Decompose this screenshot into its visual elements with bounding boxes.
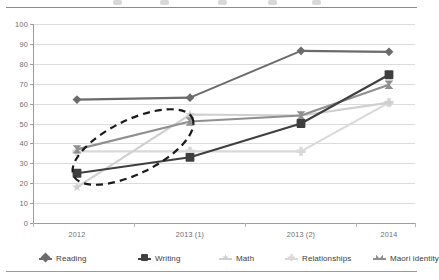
legend-marker-icon bbox=[219, 253, 232, 264]
data-point-marker bbox=[297, 46, 306, 55]
bleed-mark bbox=[268, 0, 277, 5]
chart-legend: ReadingWritingMathRelationshipsMaori ide… bbox=[33, 250, 415, 266]
legend-marker-icon bbox=[373, 253, 386, 264]
series-layer bbox=[33, 24, 415, 223]
data-point-marker bbox=[72, 182, 81, 191]
plot-area: 0102030405060708090100 20122013 (1)2013 … bbox=[33, 24, 415, 223]
x-axis-tick bbox=[356, 223, 357, 227]
page-bleed-artifacts bbox=[0, 0, 423, 7]
x-axis-tick-label: 2013 (2) bbox=[287, 230, 315, 239]
legend-item-writing[interactable]: Writing bbox=[138, 250, 180, 266]
legend-label: Relationships bbox=[302, 254, 351, 263]
y-axis-tick bbox=[30, 24, 33, 25]
legend-label: Math bbox=[236, 254, 254, 263]
bottom-divider-rule bbox=[6, 271, 417, 272]
bleed-mark bbox=[160, 0, 169, 5]
x-axis-tick-label: 2014 bbox=[381, 230, 398, 239]
y-axis-labels: 0102030405060708090100 bbox=[2, 24, 28, 223]
y-axis-tick-label: 10 bbox=[2, 199, 28, 208]
data-point-marker bbox=[296, 147, 305, 156]
legend-line-swatch bbox=[373, 258, 386, 260]
x-axis-tick bbox=[245, 223, 246, 227]
y-axis-tick-label: 0 bbox=[2, 219, 28, 228]
bleed-mark bbox=[312, 0, 321, 5]
y-axis-tick bbox=[30, 124, 33, 125]
x-axis-tick-label: 2012 bbox=[69, 230, 86, 239]
y-axis-tick-label: 70 bbox=[2, 79, 28, 88]
y-axis-tick-label: 80 bbox=[2, 59, 28, 68]
y-axis-tick-label: 100 bbox=[2, 20, 28, 29]
legend-item-relationships[interactable]: Relationships bbox=[285, 250, 351, 266]
y-axis-tick-label: 60 bbox=[2, 99, 28, 108]
legend-label: Writing bbox=[155, 254, 180, 263]
legend-item-maori-identity[interactable]: Maori identity bbox=[373, 250, 439, 266]
y-axis-tick-label: 40 bbox=[2, 139, 28, 148]
y-axis-tick bbox=[30, 203, 33, 204]
legend-symbol-diamond-icon bbox=[41, 253, 51, 263]
legend-label: Maori identity bbox=[390, 254, 439, 263]
data-point-marker bbox=[73, 169, 82, 178]
y-axis-tick bbox=[30, 64, 33, 65]
series-line bbox=[77, 85, 389, 150]
legend-label: Reading bbox=[56, 254, 87, 263]
legend-symbol-plus-x-icon bbox=[288, 254, 295, 261]
series-line bbox=[77, 75, 389, 174]
bleed-mark bbox=[218, 0, 227, 5]
bleed-mark bbox=[113, 0, 122, 5]
x-axis-tick-label: 2013 (1) bbox=[176, 230, 204, 239]
x-axis-tick bbox=[33, 223, 34, 227]
legend-marker-icon bbox=[138, 253, 151, 264]
y-axis-tick-label: 30 bbox=[2, 159, 28, 168]
data-point-marker bbox=[186, 93, 195, 102]
y-axis-tick-label: 50 bbox=[2, 119, 28, 128]
top-divider-rule bbox=[6, 7, 417, 8]
y-axis-tick bbox=[30, 44, 33, 45]
series-reading bbox=[73, 46, 394, 104]
series-line bbox=[77, 51, 389, 100]
legend-item-reading[interactable]: Reading bbox=[39, 250, 87, 266]
legend-marker-icon bbox=[285, 253, 298, 264]
x-axis-tick bbox=[134, 223, 135, 227]
data-point-marker bbox=[385, 47, 394, 56]
legend-symbol-square-icon bbox=[141, 254, 148, 261]
data-point-marker bbox=[186, 153, 195, 162]
x-axis-tick bbox=[415, 223, 416, 227]
series-relationships bbox=[72, 98, 393, 156]
legend-marker-icon bbox=[39, 253, 52, 264]
y-axis-tick-label: 90 bbox=[2, 39, 28, 48]
series-maori-identity bbox=[73, 81, 394, 154]
data-point-marker bbox=[73, 95, 82, 104]
series-writing bbox=[73, 70, 394, 177]
legend-item-math[interactable]: Math bbox=[219, 250, 254, 266]
y-axis-tick-label: 20 bbox=[2, 179, 28, 188]
y-axis-tick bbox=[30, 143, 33, 144]
data-point-marker bbox=[385, 70, 394, 79]
data-point-marker bbox=[297, 119, 306, 128]
y-axis-tick bbox=[30, 84, 33, 85]
x-axis-line bbox=[33, 223, 415, 224]
y-axis-tick bbox=[30, 163, 33, 164]
y-axis-tick bbox=[30, 183, 33, 184]
y-axis-tick bbox=[30, 104, 33, 105]
